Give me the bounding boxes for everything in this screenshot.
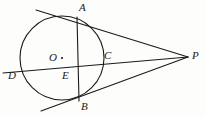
geometry-figure: A B C D E O P (0, 0, 206, 118)
point-label-p: P (192, 50, 199, 61)
geometry-canvas (0, 0, 206, 118)
point-label-o: O (49, 52, 57, 63)
point-label-e: E (62, 70, 69, 81)
chord-ab (77, 17, 79, 101)
point-label-d: D (8, 70, 16, 81)
secant-line-dp (3, 57, 188, 73)
point-label-b: B (81, 101, 88, 112)
point-label-c: C (104, 50, 111, 61)
point-label-a: A (79, 2, 86, 13)
center-dot (61, 57, 63, 59)
tangent-line-pb (41, 57, 188, 111)
tangent-line-pa (36, 10, 188, 57)
